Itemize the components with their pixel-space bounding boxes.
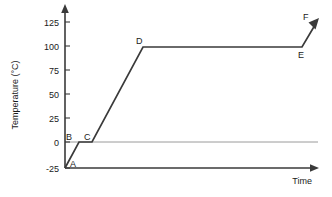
chart-canvas: 125 100 75 50 25 0 -25 Temperature (°C) … <box>0 0 332 197</box>
point-label-d: D <box>136 36 143 46</box>
y-tick-label-125: 125 <box>44 18 59 28</box>
point-label-c: C <box>84 132 91 142</box>
y-tick-label-50: 50 <box>49 90 59 100</box>
point-label-b: B <box>66 132 72 142</box>
y-tick-label-75: 75 <box>49 66 59 76</box>
point-label-e: E <box>298 50 304 60</box>
x-axis-title: Time <box>292 176 312 186</box>
y-tick-label-neg25: -25 <box>46 164 59 174</box>
y-axis-title: Temperature (°C) <box>10 60 20 129</box>
y-tick-label-0: 0 <box>54 138 59 148</box>
heating-curve-chart: 125 100 75 50 25 0 -25 Temperature (°C) … <box>0 0 332 197</box>
y-tick-label-25: 25 <box>49 114 59 124</box>
point-label-a: A <box>70 159 76 169</box>
y-tick-label-100: 100 <box>44 42 59 52</box>
point-label-f: F <box>303 12 309 22</box>
